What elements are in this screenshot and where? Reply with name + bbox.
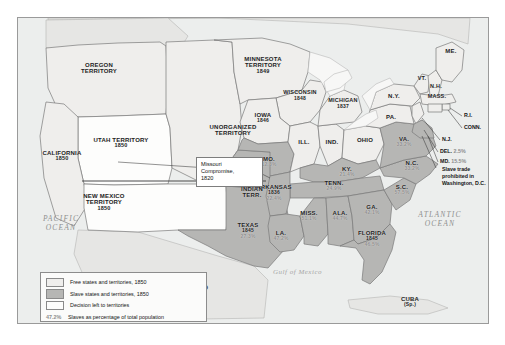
dc-note-line-3: Washington, D.C. xyxy=(442,180,489,187)
legend-percent-example: 47.2% xyxy=(46,314,62,320)
legend-item-percentage: 47.2% Slaves as percentage of total popu… xyxy=(46,312,201,323)
legend-item-slave-states: Slave states and territories, 1850 xyxy=(46,289,201,300)
legend-label-percentage: Slaves as percentage of total population xyxy=(68,314,164,320)
pointer-label-connecticut: CONN. xyxy=(464,124,481,130)
legend-label-decision-territories: Decision left to territories xyxy=(70,302,129,308)
callout-line-3: 1820 xyxy=(201,175,259,182)
legend-label-free-states: Free states and territories, 1850 xyxy=(70,279,146,285)
pointer-label-delaware: DEL. 2.5% xyxy=(440,148,466,154)
legend-swatch-slave-states xyxy=(46,289,64,299)
pointer-label-new-jersey: N.J. xyxy=(442,136,452,142)
legend-swatch-free-states xyxy=(46,278,64,288)
map-legend: Free states and territories, 1850 Slave … xyxy=(40,272,207,322)
legend-swatch-decision-territories xyxy=(46,301,64,311)
pointer-label-rhode-island: R.I. xyxy=(464,112,472,118)
map-page: .st-free{fill:#efeeec;stroke:#7a7a7a;str… xyxy=(0,0,505,345)
map-frame: .st-free{fill:#efeeec;stroke:#7a7a7a;str… xyxy=(17,17,489,324)
legend-item-decision-territories: Decision left to territories xyxy=(46,300,201,311)
missouri-compromise-callout: Missouri Compromise, 1820 xyxy=(196,157,263,187)
washington-dc-note: Slave trade prohibited in Washington, D.… xyxy=(442,166,489,187)
callout-line-1: Missouri xyxy=(201,161,259,168)
legend-label-slave-states: Slave states and territories, 1850 xyxy=(70,291,149,297)
gulf-of-mexico-label: Gulf of Mexico xyxy=(273,268,322,276)
pointer-label-maryland: MD. 15.5% xyxy=(440,158,466,164)
dc-note-line-2: prohibited in xyxy=(442,173,489,180)
dc-note-line-1: Slave trade xyxy=(442,166,489,173)
callout-line-2: Compromise, xyxy=(201,168,259,175)
legend-item-free-states: Free states and territories, 1850 xyxy=(46,277,201,288)
